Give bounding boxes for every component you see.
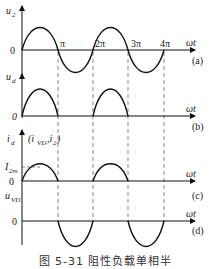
svg-text:0: 0 (9, 176, 14, 187)
svg-text:VD: VD (37, 139, 46, 147)
waveform-diagram: u 2 0 π 2π 3π 4π ωt (a) u d 0 ωt (b) i d… (0, 0, 211, 269)
svg-text:d: d (12, 77, 16, 85)
svg-text:u: u (6, 71, 11, 82)
svg-text:i: i (7, 133, 10, 144)
panel-d: u VD 0 ωt (d) (5, 183, 204, 247)
panel-tag-b: (b) (192, 121, 204, 133)
svg-text:2m: 2m (9, 167, 18, 175)
tick-pi: π (60, 38, 65, 49)
panel-a: u 2 0 π 2π 3π 4π ωt (a) (6, 5, 203, 78)
panel-tag-a: (a) (192, 55, 203, 67)
svg-text:u: u (5, 190, 10, 201)
dashed-guides (58, 52, 164, 222)
panel-c: i d (i VD ,i 2 ) I 2m 0 ωt (c) (4, 130, 203, 202)
uvd-wave (58, 221, 164, 247)
id-half-wave (22, 164, 128, 181)
svg-text:2: 2 (12, 11, 16, 19)
svg-text:(i: (i (28, 133, 34, 145)
u2-label: u (6, 5, 11, 16)
svg-text:0: 0 (12, 216, 17, 227)
svg-text:ωt: ωt (186, 103, 196, 114)
svg-text:VD: VD (11, 196, 20, 204)
svg-text:0: 0 (12, 111, 17, 122)
svg-text:d: d (11, 139, 15, 147)
ud-half-wave (22, 89, 128, 116)
panel-b: u d 0 ωt (b) (6, 71, 204, 133)
svg-text:): ) (56, 133, 61, 145)
x-label-a: ωt (186, 37, 196, 48)
svg-text:ωt: ωt (186, 168, 196, 179)
figure-caption: 图 5-31 阻性负载单相半 (0, 252, 211, 268)
tick-4pi: 4π (160, 38, 170, 49)
panel-tag-c: (c) (192, 190, 203, 202)
tick-3pi: 3π (131, 38, 141, 49)
svg-text:0: 0 (10, 45, 15, 56)
tick-2pi: 2π (95, 38, 105, 49)
svg-text:ωt: ωt (186, 208, 196, 219)
panel-tag-d: (d) (192, 225, 204, 237)
svg-text:,i: ,i (47, 133, 53, 144)
